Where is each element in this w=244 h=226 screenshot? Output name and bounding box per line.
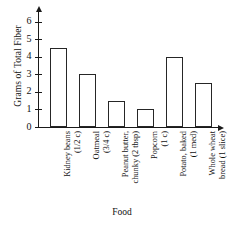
bar-chart-figure: Grams of Total Fiber 0123456 Kidney bean… <box>0 0 244 226</box>
bar <box>108 101 125 127</box>
x-axis-title: Food <box>0 207 244 217</box>
bar <box>137 109 154 127</box>
category-label-line-1: Oatmeal <box>92 131 101 159</box>
bar <box>79 74 96 127</box>
bar <box>166 57 183 127</box>
y-axis-tick-label: 2 <box>27 85 32 97</box>
y-axis-tick: 6 <box>35 22 42 23</box>
y-axis-tick: 1 <box>35 109 42 110</box>
bar <box>50 48 67 127</box>
category-label-line-1: Potato, baked <box>179 131 188 177</box>
y-axis-tick-label: 3 <box>27 68 32 80</box>
y-axis-tick-label: 6 <box>27 15 32 27</box>
bar <box>195 83 212 127</box>
y-axis-tick: 0 <box>35 127 42 128</box>
y-axis-tick-label: 1 <box>27 103 32 115</box>
y-axis-arrow-icon <box>36 6 42 12</box>
y-axis-tick: 3 <box>35 74 42 75</box>
y-axis-title: Grams of Total Fiber <box>13 1 23 131</box>
x-axis-arrow-icon <box>218 125 224 131</box>
y-axis-tick: 2 <box>35 92 42 93</box>
y-axis-tick: 4 <box>35 57 42 58</box>
category-label-line-1: Popcorn <box>150 131 159 159</box>
category-label-line-1: Kidney beans <box>63 131 72 177</box>
y-axis-tick-label: 5 <box>27 33 32 45</box>
category-label-line-1: Whole wheat <box>208 131 217 175</box>
y-axis-tick-label: 4 <box>27 50 32 62</box>
y-axis-tick-label: 0 <box>27 121 32 133</box>
y-axis-tick: 5 <box>35 39 42 40</box>
category-label-line-1: Peanut butter, <box>121 131 130 177</box>
plot-area: 0123456 Kidney beans(1/2 c)Oatmeal(3/4 c… <box>38 13 218 127</box>
x-axis-line <box>38 127 218 128</box>
